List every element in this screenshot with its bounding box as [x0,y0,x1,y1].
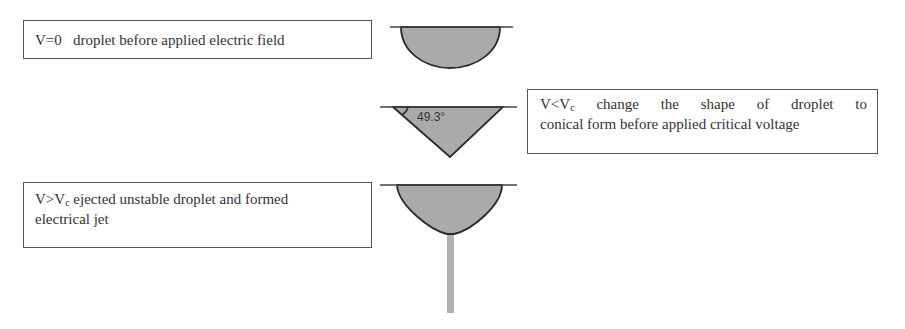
cone-angle-label: 49.3° [417,110,445,124]
stage1-droplet [390,27,513,68]
stage3-jet-droplet [380,185,517,313]
electrical-jet [447,232,454,313]
droplet-diagram: 49.3° [0,0,905,329]
stage2-cone-droplet: 49.3° [380,107,517,157]
